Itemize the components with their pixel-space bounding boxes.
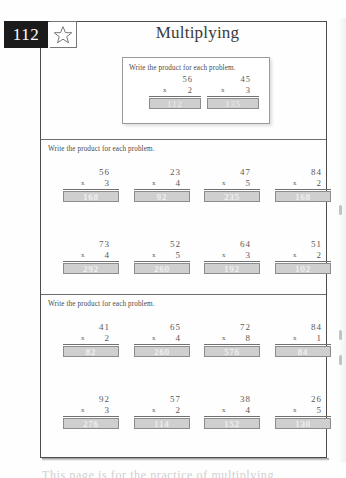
answer-box[interactable]: 292 [63, 263, 119, 274]
multiplicand: 73 [63, 239, 119, 250]
page-number-badge: 112 [4, 21, 48, 48]
multiplier-line: x 3 [207, 85, 259, 97]
multiply-operator: x [222, 250, 227, 261]
answer-box[interactable]: 260 [134, 263, 190, 274]
answer-box[interactable]: 92 [134, 191, 190, 202]
problem: 72 x 8 576 [204, 322, 260, 357]
multiply-operator: x [163, 85, 168, 96]
example-problem: 56 x 2 112 [149, 74, 201, 109]
example-instruction: Write the product for each problem. [129, 64, 236, 72]
page-title: Multiplying [80, 23, 315, 43]
multiplicand: 51 [275, 239, 331, 250]
multiplier-line: x 2 [63, 333, 119, 345]
problem: 64 x 3 192 [204, 239, 260, 274]
problem: 65 x 4 260 [134, 322, 190, 357]
problem: 56 x 3 168 [63, 167, 119, 202]
multiplier: 4 [176, 333, 182, 343]
multiplier: 8 [246, 333, 252, 343]
multiplier: 3 [105, 178, 111, 188]
multiply-operator: x [81, 333, 86, 344]
example-problem: 45 x 3 135 [207, 74, 259, 109]
multiply-operator: x [152, 178, 157, 189]
multiply-operator: x [81, 250, 86, 261]
multiplier: 2 [317, 250, 323, 260]
multiply-operator: x [293, 405, 298, 416]
multiplier: 4 [176, 178, 182, 188]
multiplier-line: x 4 [134, 333, 190, 345]
answer-box[interactable]: 102 [275, 263, 331, 274]
multiplicand: 64 [204, 239, 260, 250]
multiply-operator: x [152, 405, 157, 416]
multiplicand: 92 [63, 394, 119, 405]
multiply-operator: x [293, 333, 298, 344]
page-edge-mark [339, 355, 342, 365]
multiplicand: 57 [134, 394, 190, 405]
multiplicand: 23 [134, 167, 190, 178]
multiplicand: 52 [134, 239, 190, 250]
problem: 41 x 2 82 [63, 322, 119, 357]
multiplier: 2 [188, 85, 193, 95]
footer-caption: This page is for the practice of multipl… [42, 468, 332, 478]
answer-box[interactable]: 112 [149, 98, 201, 109]
section-instruction: Write the product for each problem. [48, 300, 155, 308]
problem: 73 x 4 292 [63, 239, 119, 274]
answer-box[interactable]: 235 [204, 191, 260, 202]
multiplicand: 72 [204, 322, 260, 333]
multiplier: 5 [246, 178, 252, 188]
multiply-operator: x [222, 333, 227, 344]
multiplicand: 38 [204, 394, 260, 405]
multiplicand: 84 [275, 322, 331, 333]
answer-box[interactable]: 114 [134, 418, 190, 429]
multiplier: 5 [176, 250, 182, 260]
multiplier-line: x 3 [63, 178, 119, 190]
problem: 47 x 5 235 [204, 167, 260, 202]
answer-box[interactable]: 276 [63, 418, 119, 429]
answer-box[interactable]: 152 [204, 418, 260, 429]
answer-box[interactable]: 82 [63, 346, 119, 357]
multiply-operator: x [293, 250, 298, 261]
multiplier: 4 [246, 405, 252, 415]
problem: 52 x 5 260 [134, 239, 190, 274]
multiplier: 4 [105, 250, 111, 260]
multiplier-line: x 2 [149, 85, 201, 97]
problem: 23 x 4 92 [134, 167, 190, 202]
multiplier-line: x 2 [275, 178, 331, 190]
multiply-operator: x [81, 405, 86, 416]
problem-row: 56 x 3 168 23 x 4 92 47 x 5 [41, 167, 326, 213]
page-edge-shadow [338, 18, 346, 463]
multiplicand: 41 [63, 322, 119, 333]
multiply-operator: x [152, 333, 157, 344]
problem: 84 x 1 84 [275, 322, 331, 357]
multiplier: 3 [246, 85, 251, 95]
problem-row: 92 x 3 276 57 x 2 114 38 x 4 [41, 394, 326, 440]
answer-box[interactable]: 168 [63, 191, 119, 202]
problem: 92 x 3 276 [63, 394, 119, 429]
multiplier: 2 [176, 405, 182, 415]
answer-box[interactable]: 168 [275, 191, 331, 202]
answer-box[interactable]: 84 [275, 346, 331, 357]
answer-box[interactable]: 576 [204, 346, 260, 357]
answer-box[interactable]: 135 [207, 98, 259, 109]
multiplier: 2 [105, 333, 111, 343]
answer-box[interactable]: 260 [134, 346, 190, 357]
page-edge-mark [339, 330, 342, 340]
multiplicand: 65 [134, 322, 190, 333]
multiplicand: 26 [275, 394, 331, 405]
multiplier-line: x 4 [204, 405, 260, 417]
answer-box[interactable]: 130 [275, 418, 331, 429]
star-icon [50, 25, 76, 45]
multiplier-line: x 8 [204, 333, 260, 345]
multiply-operator: x [221, 85, 226, 96]
section-instruction: Write the product for each problem. [48, 145, 155, 153]
multiplier-line: x 5 [134, 250, 190, 262]
multiplicand: 56 [149, 74, 201, 85]
multiplier: 5 [317, 405, 323, 415]
multiplier-line: x 1 [275, 333, 331, 345]
page-edge-mark [339, 205, 342, 215]
multiply-operator: x [81, 178, 86, 189]
multiplier: 2 [317, 178, 323, 188]
worksheet-page: 112 Multiplying Write the product for ea… [0, 0, 346, 478]
multiplier-line: x 3 [63, 405, 119, 417]
answer-box[interactable]: 192 [204, 263, 260, 274]
multiplier: 3 [246, 250, 252, 260]
